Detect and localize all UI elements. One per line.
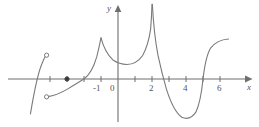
curve-descending-branch [152, 4, 228, 118]
open-circle-lower-left [45, 95, 49, 99]
x-tick-label-six: 6 [217, 84, 222, 93]
y-axis-label: y [107, 4, 111, 13]
filled-dot-on-axis [65, 77, 69, 81]
y-axis-arrowhead [115, 5, 122, 12]
graph-figure: -1 0 2 4 6 x y [0, 0, 259, 127]
function-graph-canvas [0, 0, 259, 127]
x-tick-label-zero: 0 [110, 84, 115, 93]
x-tick-label-four: 4 [183, 84, 188, 93]
open-circle-upper-left [45, 53, 49, 57]
curve-main-branch [101, 4, 152, 64]
endpoint-markers [45, 53, 70, 99]
x-axis-label: x [247, 83, 251, 92]
x-tick-label-minus-one: -1 [93, 84, 101, 93]
curve-group [30, 4, 228, 118]
x-tick-label-two: 2 [149, 84, 154, 93]
curve-left-branch [30, 55, 46, 114]
